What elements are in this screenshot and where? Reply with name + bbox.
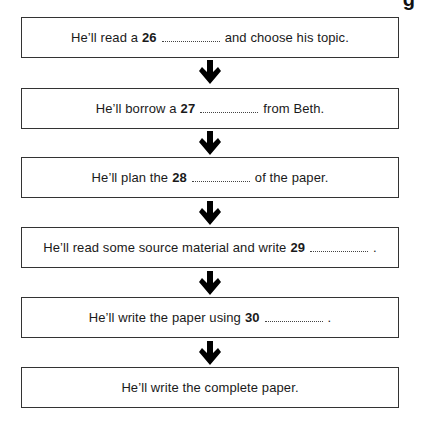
step-text: He’ll plan the: [92, 170, 169, 185]
step-text: .: [328, 310, 332, 325]
answer-blank[interactable]: [200, 111, 258, 113]
step-text: He’ll read a: [71, 30, 138, 45]
question-number: 28: [172, 170, 187, 185]
heading-fragment: g: [403, 0, 415, 11]
down-arrow-icon: [199, 201, 221, 225]
question-number: 27: [181, 101, 196, 116]
answer-blank[interactable]: [310, 250, 368, 252]
answer-blank[interactable]: [162, 40, 220, 42]
down-arrow-icon: [199, 131, 221, 155]
flow-step-3: He’ll plan the 28 of the paper.: [21, 157, 399, 198]
step-text: He’ll borrow a: [96, 101, 177, 116]
step-text: He’ll write the complete paper.: [121, 380, 298, 395]
down-arrow-icon: [199, 271, 221, 295]
question-number: 29: [290, 240, 305, 255]
flow-step-5: He’ll write the paper using 30 .: [21, 297, 399, 338]
step-text: .: [373, 240, 377, 255]
flow-step-2: He’ll borrow a 27 from Beth.: [21, 88, 399, 129]
answer-blank[interactable]: [192, 180, 250, 182]
flow-step-4: He’ll read some source material and writ…: [21, 227, 399, 268]
flow-step-6: He’ll write the complete paper.: [21, 367, 399, 408]
flow-step-1: He’ll read a 26 and choose his topic.: [21, 17, 399, 58]
down-arrow-icon: [199, 60, 221, 84]
step-text: of the paper.: [255, 170, 329, 185]
question-number: 26: [142, 30, 157, 45]
down-arrow-icon: [199, 341, 221, 365]
question-number: 30: [245, 310, 260, 325]
step-text: from Beth.: [263, 101, 324, 116]
step-text: and choose his topic.: [225, 30, 349, 45]
step-text: He’ll write the paper using: [89, 310, 241, 325]
answer-blank[interactable]: [265, 320, 323, 322]
step-text: He’ll read some source material and writ…: [43, 240, 286, 255]
